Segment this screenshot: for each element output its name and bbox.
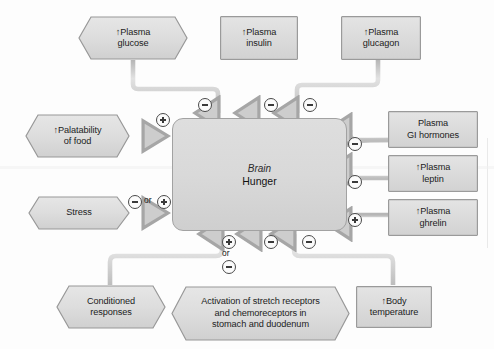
sign-minus-leptin	[348, 175, 362, 189]
sign-minus-gi-hormones	[348, 137, 362, 151]
node-label-line1: Activation of stretch receptors	[201, 296, 320, 307]
node-label-line2: ghrelin	[419, 218, 446, 229]
node-label-line1: Conditioned	[87, 296, 135, 307]
node-label-line1: ↑Body	[381, 296, 406, 307]
or-label-stress: or	[144, 196, 151, 205]
node-label-line2: glucagon	[363, 38, 400, 49]
wire-conditioned-responses	[110, 234, 222, 285]
node-label-line2: temperature	[370, 307, 419, 318]
sign-minus-stretch-chemoreceptors	[264, 235, 278, 249]
node-label-line2: GI hormones	[407, 130, 459, 141]
node-label-line2: and chemoreceptors in	[201, 308, 320, 319]
node-label-line2: of food	[54, 136, 102, 147]
diagram-canvas: ↑Plasma glucose ↑Plasma insulin ↑Plasma …	[0, 0, 494, 349]
node-stress[interactable]: Stress	[28, 196, 130, 230]
sign-minus-stress	[128, 195, 142, 209]
node-label-line1: ↑Palatability	[54, 125, 102, 136]
node-plasma-insulin[interactable]: ↑Plasma insulin	[220, 16, 298, 60]
or-label-conditioned-responses: or	[222, 249, 229, 258]
node-plasma-leptin[interactable]: ↑Plasma leptin	[388, 155, 478, 192]
node-stretch-chemoreceptors[interactable]: Activation of stretch receptors and chem…	[171, 286, 350, 341]
sign-minus-conditioned-responses	[222, 260, 236, 274]
node-label-line1: ↑Plasma	[242, 27, 277, 38]
node-label-line2: leptin	[422, 174, 443, 185]
node-plasma-glucagon[interactable]: ↑Plasma glucagon	[341, 16, 421, 60]
node-label-line1: Stress	[66, 207, 92, 218]
node-label-line1: ↑Plasma	[416, 162, 451, 173]
sign-plus-stress	[157, 195, 171, 209]
node-plasma-ghrelin[interactable]: ↑Plasma ghrelin	[388, 199, 478, 236]
sign-plus-conditioned-responses	[222, 235, 236, 249]
node-label-line1: ↑Plasma	[364, 27, 399, 38]
sign-minus-plasma-glucagon	[303, 98, 317, 112]
node-brain-hunger[interactable]: Brain Hunger	[172, 118, 347, 231]
node-conditioned-responses[interactable]: Conditioned responses	[56, 285, 166, 329]
hunger-label: Hunger	[242, 175, 276, 188]
node-palatability-of-food[interactable]: ↑Palatability of food	[25, 114, 130, 158]
brain-label: Brain	[248, 162, 271, 175]
node-label-line2: responses	[87, 307, 135, 318]
sign-plus-palatability	[156, 113, 170, 127]
sign-minus-plasma-glucose	[198, 98, 212, 112]
node-label-line1: ↑Plasma	[416, 206, 451, 217]
node-plasma-gi-hormones[interactable]: Plasma GI hormones	[388, 111, 478, 148]
sign-plus-ghrelin	[348, 213, 362, 227]
sign-minus-body-temperature	[302, 235, 316, 249]
node-label-line2: insulin	[246, 38, 272, 49]
node-label-line1: Plasma	[418, 118, 448, 129]
node-label-line3: stomach and duodenum	[201, 319, 320, 330]
node-label-line2: glucose	[116, 38, 151, 49]
node-body-temperature[interactable]: ↑Body temperature	[356, 286, 432, 328]
node-label-line1: ↑Plasma	[116, 27, 151, 38]
node-plasma-glucose[interactable]: ↑Plasma glucose	[78, 16, 188, 60]
sign-minus-plasma-insulin	[264, 98, 278, 112]
